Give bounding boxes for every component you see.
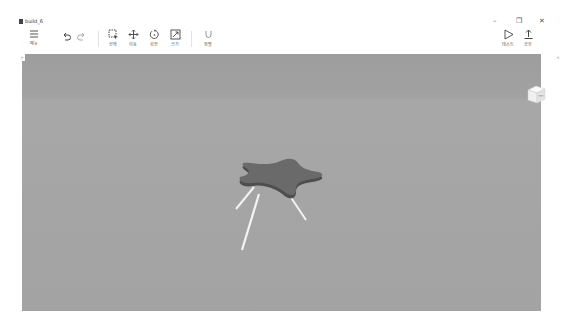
tool-scale[interactable]: 크기: [164, 27, 186, 53]
tool-scale-label: 크기: [171, 42, 179, 47]
tool-select-label: 선택: [109, 42, 117, 47]
tool-move[interactable]: 이동: [122, 27, 144, 53]
upload-icon: [523, 29, 534, 40]
minimize-button[interactable]: –: [493, 17, 497, 26]
menu-label: 메뉴: [30, 41, 38, 46]
scale-icon: [170, 29, 181, 40]
left-panel-toggle[interactable]: »: [19, 53, 25, 61]
move-icon: [128, 29, 139, 40]
cube-icon: [526, 83, 548, 105]
tool-move-label: 이동: [129, 42, 137, 47]
toolbar-divider: [191, 31, 192, 47]
play-icon: [503, 29, 514, 40]
view-cube[interactable]: [526, 83, 548, 109]
tool-align-label: 정렬: [204, 42, 212, 47]
rotate-icon: [149, 29, 160, 40]
redo-button[interactable]: [71, 27, 93, 53]
tool-rotate-label: 회전: [150, 42, 158, 47]
window-title: build_6: [25, 17, 43, 25]
tool-rotate[interactable]: 회전: [143, 27, 165, 53]
undo-icon: [61, 32, 71, 42]
app-icon: [19, 19, 23, 24]
scene: [22, 54, 541, 311]
redo-icon: [77, 32, 87, 42]
toolbar: 메뉴 선택 이동 회전 크기 정렬: [19, 27, 561, 53]
title-bar: build_6 – ❐ ✕: [19, 17, 561, 27]
hamburger-icon: [29, 29, 39, 39]
magnet-icon: [203, 29, 214, 40]
right-panel-toggle[interactable]: «: [555, 53, 561, 61]
select-icon: [108, 29, 119, 40]
share-button[interactable]: 공유: [517, 27, 539, 53]
app-window: build_6 – ❐ ✕ 메뉴 선택 이동 회전 크기: [19, 17, 561, 313]
tool-select[interactable]: 선택: [102, 27, 124, 53]
toolbar-divider: [98, 31, 99, 47]
3d-viewport[interactable]: [22, 54, 541, 311]
menu-button[interactable]: 메뉴: [23, 27, 45, 53]
table-leg: [236, 187, 254, 209]
table-leg: [290, 196, 306, 220]
maximize-button[interactable]: ❐: [516, 17, 522, 26]
share-label: 공유: [524, 42, 532, 47]
test-button[interactable]: 테스트: [497, 27, 519, 53]
table-leg: [242, 194, 259, 250]
close-button[interactable]: ✕: [539, 17, 545, 26]
test-label: 테스트: [502, 42, 514, 47]
tool-align[interactable]: 정렬: [197, 27, 219, 53]
